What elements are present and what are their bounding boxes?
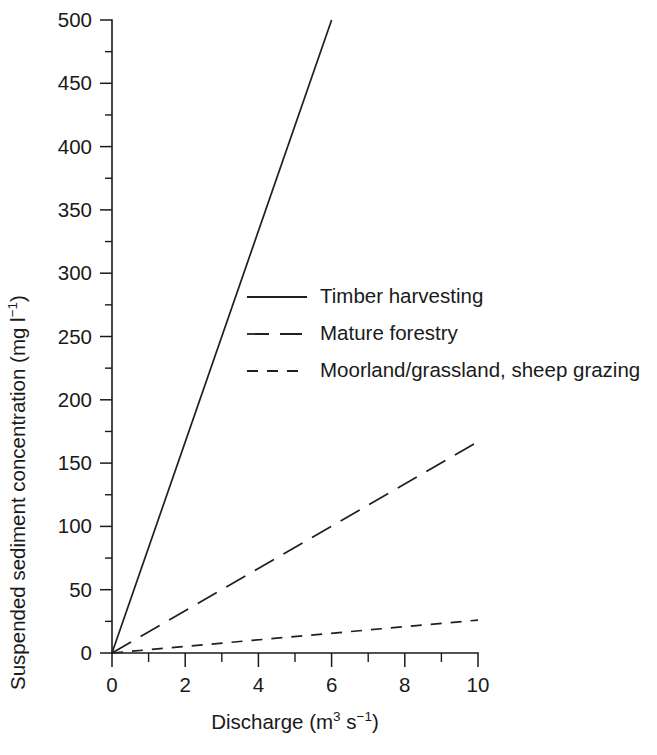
x-axis-title: Discharge (m3 s−1)	[112, 712, 478, 733]
y-tick-label: 200	[34, 390, 92, 411]
legend-label: Timber harvesting	[320, 286, 483, 307]
legend-line-sample	[246, 364, 308, 378]
series-line-1	[112, 442, 478, 653]
y-tick-label: 0	[34, 643, 92, 664]
x-tick-label: 8	[375, 675, 435, 696]
y-tick-label: 150	[34, 453, 92, 474]
x-label-superscript-3: 3	[333, 709, 341, 724]
y-tick-label: 500	[34, 10, 92, 31]
x-tick-label: 4	[228, 675, 288, 696]
y-tick-label: 450	[34, 73, 92, 94]
y-tick-label: 100	[34, 516, 92, 537]
legend-label: Moorland/grassland, sheep grazing	[320, 360, 640, 381]
y-tick-label: 250	[34, 327, 92, 348]
x-tick-label: 0	[82, 675, 142, 696]
legend-item: Timber harvesting	[246, 278, 640, 315]
chart-figure: 050100150200250300350400450500 0246810 S…	[0, 0, 657, 755]
x-tick-label: 6	[302, 675, 362, 696]
y-axis-title: Suspended sediment concentration (mg l−1…	[8, 0, 29, 690]
x-tick-label: 2	[155, 675, 215, 696]
legend-line-sample	[246, 327, 308, 341]
y-tick-label: 350	[34, 200, 92, 221]
x-label-superscript-minus1: −1	[357, 709, 372, 724]
chart-legend: Timber harvestingMature forestryMoorland…	[246, 278, 640, 389]
x-tick-label: 10	[448, 675, 508, 696]
y-tick-label: 300	[34, 263, 92, 284]
y-tick-label: 400	[34, 137, 92, 158]
legend-label: Mature forestry	[320, 323, 458, 344]
y-tick-label: 50	[34, 580, 92, 601]
y-label-superscript: −1	[5, 302, 20, 317]
legend-line-sample	[246, 290, 308, 304]
series-line-2	[112, 620, 478, 653]
legend-item: Mature forestry	[246, 315, 640, 352]
legend-item: Moorland/grassland, sheep grazing	[246, 352, 640, 389]
